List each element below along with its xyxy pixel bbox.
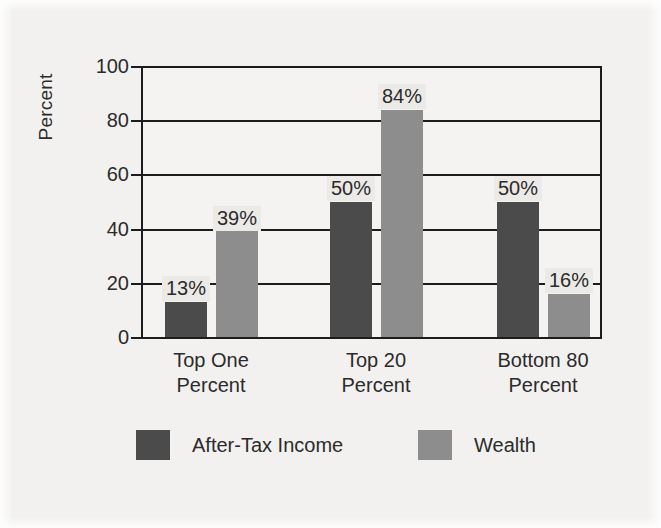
value-label-after-tax-income-top-20-percent: 50% bbox=[327, 176, 375, 201]
x-category-label-bottom-80-percent: Bottom 80 Percent bbox=[497, 348, 588, 398]
y-tick-label-40: 40 bbox=[77, 217, 129, 240]
y-tick-label-100: 100 bbox=[77, 55, 129, 78]
y-tick-mark-40 bbox=[131, 229, 143, 231]
chart-legend: After-Tax Income Wealth bbox=[0, 430, 661, 470]
y-tick-label-80: 80 bbox=[77, 109, 129, 132]
bar-after-tax-income-top-one-percent bbox=[165, 302, 207, 337]
y-axis-title: Percent bbox=[35, 37, 57, 177]
value-label-wealth-top-one-percent: 39% bbox=[213, 206, 261, 231]
legend-label-wealth: Wealth bbox=[474, 434, 536, 457]
bar-after-tax-income-top-20-percent bbox=[330, 202, 372, 337]
y-tick-mark-20 bbox=[131, 283, 143, 285]
bar-after-tax-income-bottom-80-percent bbox=[497, 202, 539, 337]
bar-wealth-top-one-percent bbox=[216, 231, 258, 337]
bar-wealth-top-20-percent bbox=[381, 110, 423, 337]
y-tick-mark-100 bbox=[131, 66, 143, 68]
bar-wealth-bottom-80-percent bbox=[548, 294, 590, 337]
x-category-label-top-one-percent: Top One Percent bbox=[173, 348, 249, 398]
legend-item-after-tax-income: After-Tax Income bbox=[136, 430, 343, 460]
y-tick-label-60: 60 bbox=[77, 163, 129, 186]
y-axis-tick-labels: 0 20 40 60 80 100 bbox=[71, 66, 129, 337]
legend-swatch-wealth bbox=[418, 430, 452, 460]
gridline-80 bbox=[143, 120, 600, 122]
y-tick-label-0: 0 bbox=[77, 326, 129, 349]
value-label-wealth-bottom-80-percent: 16% bbox=[545, 268, 593, 293]
y-tick-mark-60 bbox=[131, 174, 143, 176]
value-label-after-tax-income-bottom-80-percent: 50% bbox=[494, 176, 542, 201]
y-tick-mark-0 bbox=[131, 337, 143, 339]
x-category-label-top-20-percent: Top 20 Percent bbox=[342, 348, 411, 398]
plot-area: 13% 39% 50% 84% 50% 16% bbox=[141, 66, 602, 339]
legend-label-after-tax-income: After-Tax Income bbox=[192, 434, 343, 457]
bar-chart-figure: Percent 0 20 40 60 80 100 13% 39% 50% 84… bbox=[0, 0, 661, 528]
value-label-after-tax-income-top-one-percent: 13% bbox=[162, 276, 210, 301]
y-tick-label-20: 20 bbox=[77, 271, 129, 294]
y-tick-mark-80 bbox=[131, 120, 143, 122]
legend-item-wealth: Wealth bbox=[418, 430, 536, 460]
legend-swatch-after-tax-income bbox=[136, 430, 170, 460]
value-label-wealth-top-20-percent: 84% bbox=[378, 84, 426, 109]
